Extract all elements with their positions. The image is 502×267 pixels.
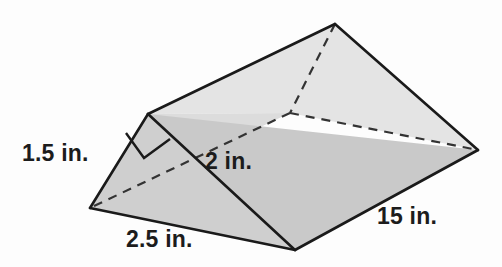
triangular-prism-figure: 1.5 in. 2 in. 2.5 in. 15 in. bbox=[0, 0, 502, 267]
dimension-label-length: 15 in. bbox=[377, 205, 437, 228]
dimension-label-height: 1.5 in. bbox=[22, 142, 89, 165]
dimension-label-slant: 2 in. bbox=[205, 150, 252, 173]
dimension-label-base: 2.5 in. bbox=[126, 228, 193, 251]
